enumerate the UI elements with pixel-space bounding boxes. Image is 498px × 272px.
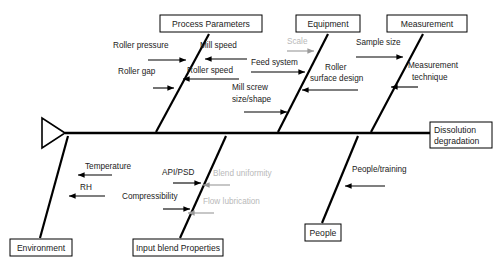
cause-label: Roller gap	[118, 67, 156, 76]
cause-label: RH	[80, 183, 92, 192]
cause-label: Mill speed	[200, 41, 237, 50]
cause-label: API/PSD	[162, 168, 194, 177]
spine-group	[42, 118, 463, 148]
cause-label: Scale	[287, 37, 308, 46]
category-boxes-group: Process ParametersEquipmentMeasurementEn…	[10, 15, 467, 256]
cause-label: Flow lubrication	[203, 197, 260, 206]
cause-labels-group: Roller pressureMill speedRoller gapRolle…	[80, 37, 459, 206]
effect-box[interactable]: Dissolutiondegradation	[430, 122, 492, 148]
category-label-input-blend-properties: Input blend Properties	[136, 243, 220, 253]
branch-line-measurement	[371, 34, 423, 132]
category-box-input-blend-properties[interactable]: Input blend Properties	[133, 239, 223, 256]
category-label-environment: Environment	[17, 243, 66, 253]
category-box-equipment[interactable]: Equipment	[296, 15, 360, 32]
category-label-people: People	[310, 228, 337, 238]
cause-label: Blend uniformity	[213, 169, 273, 178]
spine-tail-triangle-icon	[42, 118, 65, 148]
fishbone-diagram: Roller pressureMill speedRoller gapRolle…	[0, 0, 498, 272]
category-box-process-parameters[interactable]: Process Parameters	[160, 15, 262, 32]
category-label-equipment: Equipment	[307, 19, 349, 29]
cause-label: technique	[412, 73, 448, 82]
cause-label: surface design	[310, 74, 364, 83]
category-box-people[interactable]: People	[305, 224, 341, 241]
branch-lines-group	[40, 34, 423, 238]
cause-label: size/shape	[232, 95, 272, 104]
effect-box-group: Dissolutiondegradation	[430, 122, 492, 148]
cause-label: Measurement	[408, 61, 459, 70]
cause-label: Mill screw	[232, 83, 268, 92]
cause-label: Roller pressure	[113, 41, 169, 50]
branch-line-environment	[40, 136, 68, 238]
branch-line-input-blend-properties	[180, 136, 226, 238]
cause-label: Roller speed	[187, 66, 233, 75]
branch-line-people	[322, 136, 358, 223]
category-label-process-parameters: Process Parameters	[172, 19, 250, 29]
cause-label: Sample size	[356, 38, 401, 47]
effect-label-line2: degradation	[434, 136, 480, 146]
fishbone-canvas: Roller pressureMill speedRoller gapRolle…	[0, 0, 498, 272]
cause-label: Feed system	[251, 58, 298, 67]
category-box-environment[interactable]: Environment	[10, 239, 72, 256]
effect-label-line1: Dissolution	[434, 125, 476, 135]
category-label-measurement: Measurement	[401, 19, 454, 29]
category-box-measurement[interactable]: Measurement	[387, 15, 467, 32]
cause-label: Temperature	[85, 162, 131, 171]
cause-label: Compressibility	[122, 192, 178, 201]
cause-label: People/training	[352, 165, 407, 174]
cause-label: Roller	[325, 63, 347, 72]
branch-line-equipment	[278, 34, 328, 132]
